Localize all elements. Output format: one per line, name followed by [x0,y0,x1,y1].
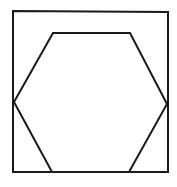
outer-square [13,11,168,172]
diagram-canvas [0,0,177,187]
hexagon-in-square-figure [0,0,177,187]
inscribed-hexagon [14,33,167,172]
